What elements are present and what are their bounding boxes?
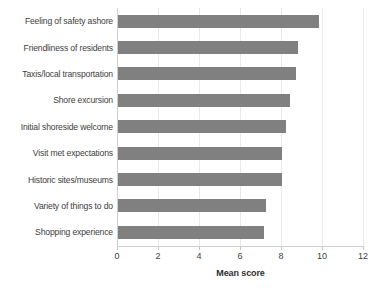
category-label: Variety of things to do	[0, 201, 113, 211]
x-tick-label: 0	[102, 251, 132, 261]
category-label: Shore excursion	[0, 95, 113, 105]
x-tick-label: 12	[348, 251, 377, 261]
bar-row: Initial shoreside welcome	[0, 114, 377, 140]
bar	[118, 15, 319, 28]
x-axis-ticks: 0 2 4 6 8 10 12	[0, 247, 377, 261]
x-tick-label: 4	[184, 251, 214, 261]
bar-track	[118, 193, 364, 219]
category-label: Visit met expectations	[0, 148, 113, 158]
bar-track	[118, 166, 364, 192]
bar	[118, 120, 286, 133]
bar-row: Variety of things to do	[0, 193, 377, 219]
bar-chart: Feeling of safety ashore Friendliness of…	[0, 0, 377, 289]
x-tick-mark	[199, 247, 200, 250]
category-label: Friendliness of residents	[0, 43, 113, 53]
category-label: Shopping experience	[0, 227, 113, 237]
bar	[118, 67, 296, 80]
bar-track	[118, 140, 364, 166]
bar-row: Shore excursion	[0, 87, 377, 113]
x-tick-mark	[240, 247, 241, 250]
x-tick-mark	[117, 247, 118, 250]
bar	[118, 173, 282, 186]
x-tick-mark	[281, 247, 282, 250]
bar-track	[118, 34, 364, 60]
bar-row: Historic sites/museums	[0, 166, 377, 192]
x-tick-mark	[363, 247, 364, 250]
bar-track	[118, 114, 364, 140]
bar-track	[118, 61, 364, 87]
category-label: Initial shoreside welcome	[0, 122, 113, 132]
x-tick-mark	[322, 247, 323, 250]
category-label: Feeling of safety ashore	[0, 16, 113, 26]
bar	[118, 226, 264, 239]
bar	[118, 199, 266, 212]
x-tick-label: 10	[307, 251, 337, 261]
bar-rows: Feeling of safety ashore Friendliness of…	[0, 8, 377, 246]
x-tick-label: 2	[143, 251, 173, 261]
bar-row: Taxis/local transportation	[0, 61, 377, 87]
bar-row: Shopping experience	[0, 219, 377, 245]
bar	[118, 41, 298, 54]
bar-track	[118, 219, 364, 245]
category-label: Taxis/local transportation	[0, 69, 113, 79]
x-tick-mark	[158, 247, 159, 250]
bar-track	[118, 8, 364, 34]
bar-row: Friendliness of residents	[0, 34, 377, 60]
bar-row: Visit met expectations	[0, 140, 377, 166]
x-tick-label: 8	[266, 251, 296, 261]
category-label: Historic sites/museums	[0, 175, 113, 185]
bar-row: Feeling of safety ashore	[0, 8, 377, 34]
bar	[118, 147, 282, 160]
bar-track	[118, 87, 364, 113]
x-tick-label: 6	[225, 251, 255, 261]
bar	[118, 94, 290, 107]
x-axis-title: Mean score	[117, 268, 364, 278]
